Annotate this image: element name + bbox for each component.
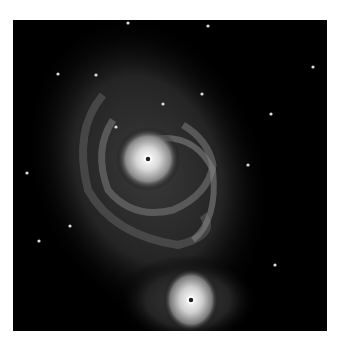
star: [273, 263, 276, 266]
star: [206, 24, 209, 27]
star: [246, 163, 249, 166]
star: [56, 72, 59, 75]
galaxy-nucleus: [145, 156, 151, 162]
galaxy-image: [13, 20, 327, 331]
companion-nucleus: [188, 297, 194, 303]
star: [200, 92, 203, 95]
star: [114, 125, 117, 128]
star: [311, 65, 314, 68]
star: [126, 21, 129, 24]
star: [161, 102, 164, 105]
star: [68, 224, 71, 227]
star: [37, 239, 40, 242]
galaxy-illustration: [13, 20, 327, 331]
star: [94, 73, 97, 76]
star: [269, 112, 272, 115]
star: [25, 171, 28, 174]
